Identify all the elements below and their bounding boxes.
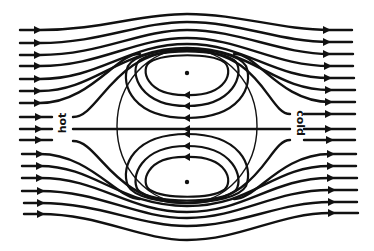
label-hot: hot <box>56 113 69 134</box>
streamline-diagram: hot cold <box>0 0 374 251</box>
label-cold: cold <box>294 110 307 136</box>
internal-arrowheads <box>183 91 190 161</box>
outer-streamlines-top <box>20 14 355 117</box>
hot-label: hot <box>56 113 69 134</box>
cold-label: cold <box>294 110 307 136</box>
